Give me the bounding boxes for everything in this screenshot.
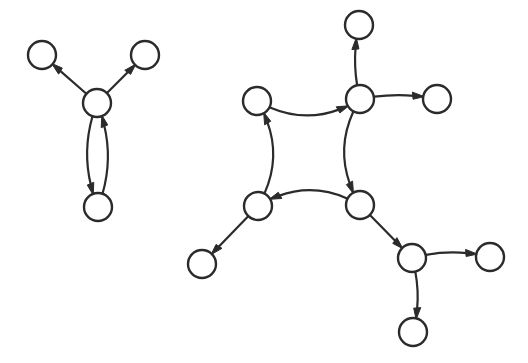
directed-graph-figure <box>0 0 528 363</box>
left-upper-left-node[interactable] <box>28 41 56 69</box>
canvas-background <box>0 0 528 363</box>
right-satellite-node[interactable] <box>423 85 451 113</box>
bottom-hub-node[interactable] <box>398 244 426 272</box>
left-bottom-node[interactable] <box>84 193 112 221</box>
cycle-top-right-node[interactable] <box>346 85 374 113</box>
bottom-satellite-node[interactable] <box>399 318 427 346</box>
cycle-bottom-right-node[interactable] <box>346 191 374 219</box>
lower-left-satellite-node[interactable] <box>188 250 216 278</box>
top-satellite-node[interactable] <box>345 11 373 39</box>
cycle-top-left-node[interactable] <box>243 87 271 115</box>
diagram-canvas <box>0 0 528 363</box>
far-right-satellite-node[interactable] <box>476 243 504 271</box>
left-center-node[interactable] <box>83 89 111 117</box>
cycle-bottom-left-node[interactable] <box>244 192 272 220</box>
left-upper-right-node[interactable] <box>131 41 159 69</box>
